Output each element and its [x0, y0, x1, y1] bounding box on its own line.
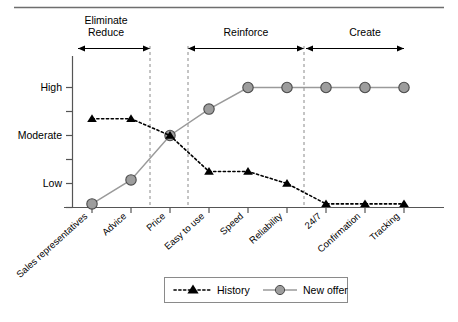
- group-label-reduce: Reduce: [88, 26, 124, 38]
- category-label-reliability: Reliability: [247, 210, 285, 246]
- new-offer-point: [321, 82, 331, 92]
- x-axis-ticks: [92, 208, 404, 214]
- x-axis-category-labels: Sales representatives Advice Price Easy …: [14, 210, 401, 279]
- legend-new-offer-circle-icon: [275, 285, 284, 294]
- group-span-create: Create: [306, 26, 404, 52]
- history-point: [87, 114, 97, 122]
- new-offer-point: [360, 82, 370, 92]
- new-offer-line: [92, 88, 404, 204]
- legend-history-label: History: [217, 284, 250, 296]
- category-label-tracking: Tracking: [367, 210, 401, 242]
- history-line: [92, 119, 404, 204]
- y-axis-ticks: [66, 88, 73, 208]
- y-axis-label-moderate: Moderate: [18, 129, 63, 141]
- group-span-eliminate-reduce: Eliminate Reduce: [78, 14, 150, 52]
- group-arrow-head-left-3: [306, 45, 313, 51]
- new-offer-point: [204, 104, 214, 114]
- series-new-offer: [87, 82, 409, 209]
- new-offer-point: [243, 82, 253, 92]
- category-label-speed: Speed: [218, 210, 246, 237]
- y-axis-label-high: High: [40, 81, 62, 93]
- group-arrow-head-left-2: [188, 45, 195, 51]
- category-label-confirmation: Confirmation: [315, 210, 362, 254]
- category-label-price: Price: [144, 210, 167, 233]
- new-offer-point: [399, 82, 409, 92]
- group-arrow-head-left-1: [78, 45, 85, 51]
- group-label-reinforce: Reinforce: [224, 26, 269, 38]
- history-markers: [87, 114, 409, 207]
- new-offer-point: [87, 199, 97, 209]
- chart-canvas: Eliminate Reduce Reinforce Create High M…: [0, 0, 458, 322]
- category-label-advice: Advice: [100, 210, 129, 237]
- group-span-reinforce: Reinforce: [188, 26, 304, 52]
- series-history: [87, 114, 409, 207]
- legend-new-offer-label: New offer: [303, 284, 348, 296]
- category-label-easy-to-use: Easy to use: [162, 210, 206, 251]
- new-offer-markers: [87, 82, 409, 209]
- new-offer-point: [126, 175, 136, 185]
- category-label-247: 24/7: [302, 210, 323, 231]
- group-arrow-head-right-2: [297, 45, 304, 51]
- chart-figure: Eliminate Reduce Reinforce Create High M…: [0, 0, 458, 322]
- group-label-eliminate: Eliminate: [84, 14, 127, 26]
- group-arrow-head-right-3: [397, 45, 404, 51]
- group-arrow-head-right-1: [143, 45, 150, 51]
- category-label-sales-representatives: Sales representatives: [14, 210, 89, 279]
- group-label-create: Create: [349, 26, 381, 38]
- new-offer-point: [282, 82, 292, 92]
- y-axis-label-low: Low: [43, 177, 63, 189]
- chart-legend: History New offer: [165, 278, 349, 303]
